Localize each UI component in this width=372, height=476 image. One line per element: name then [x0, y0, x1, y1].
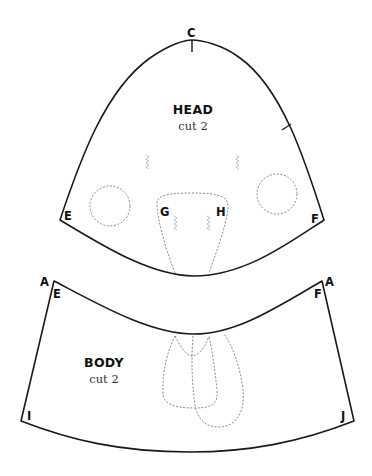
- body-placement-left: [163, 336, 217, 408]
- label-c: C: [187, 26, 195, 40]
- label-g: G: [160, 205, 169, 219]
- body-outline: [21, 281, 354, 452]
- dart-mark-upper-right: [236, 155, 239, 169]
- pattern-canvas: C E F G H HEAD cut 2 A E A F I J BODY cu…: [0, 0, 372, 476]
- dart-mark-upper-left: [146, 155, 149, 169]
- eye-placement-left: [90, 186, 130, 226]
- label-f-body: F: [314, 287, 322, 301]
- pattern-svg: C E F G H HEAD cut 2 A E A F I J BODY cu…: [0, 0, 372, 476]
- label-a-left: A: [40, 275, 49, 289]
- label-e-head: E: [64, 209, 72, 223]
- label-e-body: E: [53, 287, 61, 301]
- head-title: HEAD: [173, 102, 213, 117]
- label-j: J: [340, 409, 345, 423]
- label-f-head: F: [311, 212, 319, 226]
- head-outline: [60, 40, 324, 276]
- label-h: H: [216, 205, 226, 219]
- head-piece: C E F G H HEAD cut 2: [60, 26, 324, 276]
- body-title: BODY: [84, 355, 125, 370]
- dart-mark-lower-left: [174, 216, 177, 230]
- label-i: I: [27, 409, 31, 423]
- eye-placement-right: [257, 174, 297, 214]
- label-a-right: A: [325, 275, 334, 289]
- head-cut-instruction: cut 2: [178, 119, 207, 133]
- body-cut-instruction: cut 2: [89, 372, 118, 386]
- body-placement-right: [192, 334, 243, 427]
- dart-mark-lower-right: [207, 216, 210, 230]
- body-piece: A E A F I J BODY cut 2: [21, 275, 354, 452]
- body-placement-v: [175, 336, 209, 356]
